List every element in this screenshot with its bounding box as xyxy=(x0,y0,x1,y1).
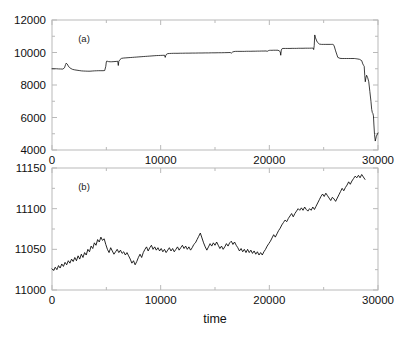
panel-label-a: (a) xyxy=(78,33,90,44)
x-tick-label: 20000 xyxy=(253,294,285,306)
plot-frame xyxy=(52,20,378,150)
x-tick-label: 0 xyxy=(49,294,55,306)
two-panel-timeseries-figure: 40006000800010000120000100002000030000(a… xyxy=(0,0,410,340)
x-tick-label: 10000 xyxy=(145,294,177,306)
y-tick-label: 11150 xyxy=(16,162,46,174)
x-tick-label: 0 xyxy=(49,154,55,166)
y-tick-label: 11000 xyxy=(15,284,46,296)
y-tick-label: 8000 xyxy=(20,79,46,91)
y-tick-label: 12000 xyxy=(14,14,46,26)
x-tick-label: 30000 xyxy=(362,294,394,306)
y-tick-label: 10000 xyxy=(14,47,46,59)
x-tick-label: 20000 xyxy=(253,154,285,166)
y-tick-label: 6000 xyxy=(20,112,46,124)
panel-a: 40006000800010000120000100002000030000(a… xyxy=(14,14,394,166)
data-series-signal-b xyxy=(52,175,365,271)
plot-frame xyxy=(52,168,378,290)
y-tick-label: 11100 xyxy=(16,203,46,215)
x-tick-label: 10000 xyxy=(145,154,177,166)
figure-container: 40006000800010000120000100002000030000(a… xyxy=(0,0,410,340)
x-axis-title: time xyxy=(203,312,227,326)
panel-b: 110001105011100111500100002000030000(b) xyxy=(15,162,394,306)
panel-label-b: (b) xyxy=(78,181,90,192)
x-tick-label: 30000 xyxy=(362,154,394,166)
y-tick-label: 4000 xyxy=(20,144,46,156)
data-series-signal-a xyxy=(52,35,378,141)
y-tick-label: 11050 xyxy=(15,243,46,255)
